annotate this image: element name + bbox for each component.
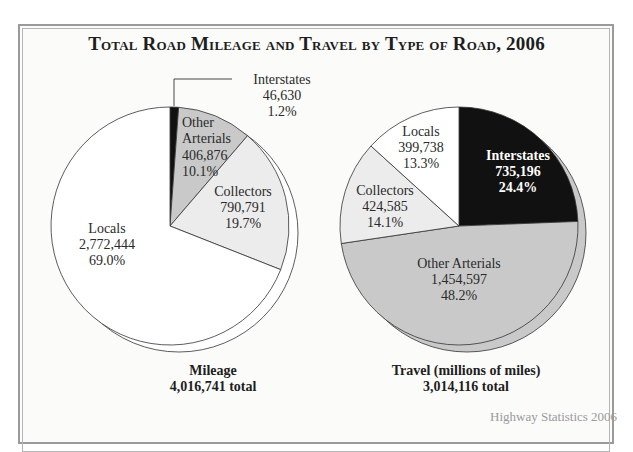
leader-line-interstates bbox=[174, 79, 232, 106]
label-collectors-name: Collectors bbox=[214, 184, 272, 199]
label-locals-value: 2,772,444 bbox=[79, 237, 135, 252]
label-collectors-value: 424,585 bbox=[362, 199, 408, 214]
caption-mileage-title: Mileage bbox=[148, 363, 278, 379]
label-interstates-percent: 24.4% bbox=[499, 180, 538, 195]
label-locals-percent: 69.0% bbox=[89, 253, 126, 268]
pie-mileage: Interstates 46,630 1.2% Other Arterials … bbox=[51, 72, 311, 352]
label-locals-percent: 13.3% bbox=[403, 156, 440, 171]
pie-travel: Interstates 735,196 24.4% Other Arterial… bbox=[340, 107, 586, 352]
label-collectors-percent: 19.7% bbox=[225, 216, 262, 231]
label-other-arterials-percent: 48.2% bbox=[441, 288, 478, 303]
label-other-arterials-name-2: Arterials bbox=[182, 131, 231, 146]
label-locals-value: 399,738 bbox=[398, 140, 444, 155]
label-collectors-value: 790,791 bbox=[220, 200, 266, 215]
caption-travel-total: 3,014,116 total bbox=[380, 379, 552, 395]
caption-mileage-total: 4,016,741 total bbox=[148, 379, 278, 395]
label-interstates-percent: 1.2% bbox=[267, 104, 297, 119]
label-other-arterials-value: 1,454,597 bbox=[431, 272, 487, 287]
caption-mileage: Mileage 4,016,741 total bbox=[148, 363, 278, 395]
source-note-partial: Highway Statistics 2006 bbox=[490, 409, 617, 425]
label-interstates-value: 46,630 bbox=[263, 88, 302, 103]
label-interstates-value: 735,196 bbox=[495, 164, 541, 179]
caption-travel-title: Travel (millions of miles) bbox=[380, 363, 552, 379]
label-collectors-percent: 14.1% bbox=[367, 215, 404, 230]
label-locals-name: Locals bbox=[402, 124, 439, 139]
caption-travel: Travel (millions of miles) 3,014,116 tot… bbox=[380, 363, 552, 395]
label-interstates-name: Interstates bbox=[253, 72, 311, 87]
label-other-arterials-percent: 10.1% bbox=[182, 164, 219, 179]
label-locals-name: Locals bbox=[88, 221, 125, 236]
label-collectors-name: Collectors bbox=[356, 183, 414, 198]
label-other-arterials-name-1: Other bbox=[182, 115, 214, 130]
label-other-arterials-name: Other Arterials bbox=[417, 256, 501, 271]
label-interstates-name: Interstates bbox=[486, 148, 550, 163]
label-other-arterials-value: 406,876 bbox=[182, 148, 228, 163]
